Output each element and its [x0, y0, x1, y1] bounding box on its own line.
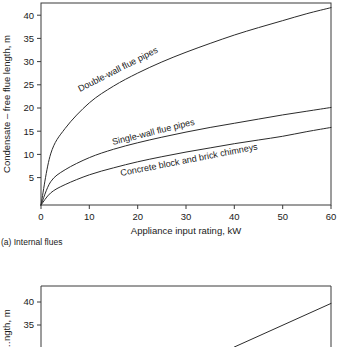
- y-axis-title-b: …ngth, m: [1, 309, 12, 347]
- curve-panel-b-partial: [234, 303, 331, 347]
- x-tick-label-40: 40: [229, 211, 240, 222]
- curve-label-concrete-block-and-brick-chimneys: Concrete block and brick chimneys: [119, 141, 258, 178]
- curve-double-wall-flue-pipes: [41, 8, 331, 205]
- y-tick-label-25: 25: [23, 79, 34, 90]
- y-axis-tick-labels-a: 40 35 30 25 20 15 10 5: [23, 10, 34, 183]
- y-axis-tick-labels-b: 40 35: [23, 296, 34, 330]
- curve-label-double-wall-flue-pipes: Double-wall flue pipes: [76, 45, 159, 94]
- x-tick-label-30: 30: [181, 211, 192, 222]
- y-tick-label-40: 40: [23, 10, 34, 21]
- chart-svg: 40 35 30 25 20 15 10 5 0: [0, 0, 339, 347]
- y-tick-label-5: 5: [29, 172, 34, 183]
- panel-a: 40 35 30 25 20 15 10 5 0: [1, 3, 336, 236]
- x-tick-label-50: 50: [277, 211, 288, 222]
- y-axis-ticks-a: [37, 15, 41, 177]
- x-axis-tick-labels-a: 0 10 20 30 40 50 60: [38, 211, 336, 222]
- x-tick-label-20: 20: [132, 211, 143, 222]
- y-tick-label-30: 30: [23, 56, 34, 67]
- y-tick-label-35-b: 35: [23, 319, 34, 330]
- y-tick-label-40-b: 40: [23, 296, 34, 307]
- curve-concrete-block-and-brick-chimneys: [41, 127, 331, 205]
- panel-b: 40 35 …ngth, m: [1, 286, 331, 347]
- x-tick-label-60: 60: [326, 211, 337, 222]
- x-axis-title-a: Appliance input rating, kW: [131, 225, 241, 236]
- plot-frame-a: [41, 3, 331, 205]
- y-axis-title-a: Condensate – free flue length, m: [1, 35, 12, 173]
- curve-label-single-wall-flue-pipes: Single-wall flue pipes: [111, 117, 196, 147]
- y-tick-label-10: 10: [23, 149, 34, 160]
- figure-container: 40 35 30 25 20 15 10 5 0: [0, 0, 339, 347]
- y-tick-label-15: 15: [23, 126, 34, 137]
- y-tick-label-20: 20: [23, 102, 34, 113]
- x-tick-label-10: 10: [84, 211, 95, 222]
- y-axis-ticks-b: [37, 302, 41, 325]
- x-tick-label-0: 0: [38, 211, 43, 222]
- x-axis-ticks-a: [41, 205, 331, 209]
- plot-frame-b: [41, 286, 331, 347]
- y-tick-label-35: 35: [23, 33, 34, 44]
- panel-caption-a: (a) Internal flues: [1, 237, 62, 247]
